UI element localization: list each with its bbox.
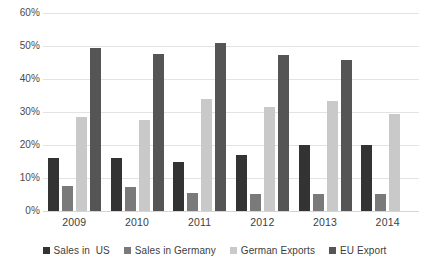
bar-2012-series-1 bbox=[250, 194, 261, 211]
x-tick-label-2012: 2012 bbox=[231, 215, 294, 235]
bar-2011-series-1 bbox=[187, 193, 198, 211]
x-axis: 200920102011201220132014 bbox=[43, 215, 419, 235]
bar-2013-series-1 bbox=[313, 194, 324, 211]
bar-group-2009 bbox=[43, 13, 106, 211]
bar-2010-series-1 bbox=[125, 187, 136, 211]
bar-group-2013 bbox=[294, 13, 357, 211]
chart-legend: Sales in USSales in GermanyGerman Export… bbox=[0, 241, 429, 259]
bar-2013-series-3 bbox=[341, 60, 352, 211]
x-tick-label-2014: 2014 bbox=[356, 215, 419, 235]
bar-2014-series-2 bbox=[389, 114, 400, 211]
legend-label-0: Sales in US bbox=[54, 245, 110, 256]
legend-swatch-icon-0 bbox=[43, 247, 50, 254]
bar-2013-series-2 bbox=[327, 101, 338, 211]
bar-2013-series-0 bbox=[299, 145, 310, 211]
legend-swatch-icon-3 bbox=[329, 247, 336, 254]
bar-2011-series-0 bbox=[173, 162, 184, 212]
y-tick-label-10: 10% bbox=[0, 173, 40, 183]
bar-2012-series-0 bbox=[236, 155, 247, 211]
legend-item-2[interactable]: German Exports bbox=[230, 245, 315, 256]
bar-2011-series-2 bbox=[201, 99, 212, 211]
y-tick-label-40: 40% bbox=[0, 74, 40, 84]
bar-2014-series-1 bbox=[375, 194, 386, 211]
x-tick-label-2010: 2010 bbox=[106, 215, 169, 235]
legend-item-0[interactable]: Sales in US bbox=[43, 245, 110, 256]
bar-chart: 60%50%40%30%20%10%0% 2009201020112012201… bbox=[0, 0, 429, 264]
bar-2009-series-2 bbox=[76, 117, 87, 211]
gridline-0 bbox=[43, 211, 419, 212]
legend-label-3: EU Export bbox=[340, 245, 386, 256]
bar-group-2010 bbox=[106, 13, 169, 211]
bar-group-2011 bbox=[168, 13, 231, 211]
bar-2009-series-1 bbox=[62, 186, 73, 211]
y-tick-label-30: 30% bbox=[0, 107, 40, 117]
bar-2010-series-0 bbox=[111, 158, 122, 211]
bar-group-2012 bbox=[231, 13, 294, 211]
bar-2009-series-0 bbox=[48, 158, 59, 211]
y-tick-label-60: 60% bbox=[0, 8, 40, 18]
bar-2012-series-3 bbox=[278, 55, 289, 211]
y-axis: 60%50%40%30%20%10%0% bbox=[0, 0, 40, 264]
bar-2010-series-3 bbox=[153, 54, 164, 211]
bar-groups bbox=[43, 13, 419, 211]
x-tick-label-2011: 2011 bbox=[168, 215, 231, 235]
bar-2009-series-3 bbox=[90, 48, 101, 211]
legend-item-3[interactable]: EU Export bbox=[329, 245, 386, 256]
legend-swatch-icon-1 bbox=[124, 247, 131, 254]
legend-label-1: Sales in Germany bbox=[135, 245, 216, 256]
bar-2012-series-2 bbox=[264, 107, 275, 211]
bar-2014-series-0 bbox=[361, 145, 372, 211]
bar-group-2014 bbox=[356, 13, 419, 211]
y-tick-label-20: 20% bbox=[0, 140, 40, 150]
legend-item-1[interactable]: Sales in Germany bbox=[124, 245, 216, 256]
legend-label-2: German Exports bbox=[241, 245, 315, 256]
x-tick-label-2013: 2013 bbox=[294, 215, 357, 235]
x-tick-label-2009: 2009 bbox=[43, 215, 106, 235]
bar-2010-series-2 bbox=[139, 120, 150, 211]
bar-2011-series-3 bbox=[215, 43, 226, 211]
y-tick-label-50: 50% bbox=[0, 41, 40, 51]
y-tick-label-0: 0% bbox=[0, 206, 40, 216]
legend-swatch-icon-2 bbox=[230, 247, 237, 254]
